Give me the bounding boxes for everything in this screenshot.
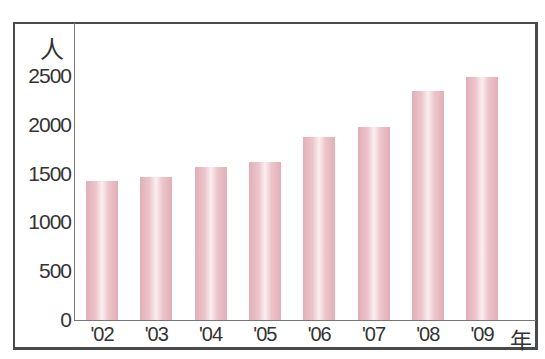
x-tick-label: '08 (408, 324, 448, 344)
x-axis-unit-label: 年 (510, 322, 532, 354)
bar-05 (249, 162, 281, 320)
y-tick-label: 0 (60, 309, 71, 330)
bar-02 (86, 181, 118, 320)
bar-04 (195, 167, 227, 320)
x-tick-label: '05 (245, 324, 285, 344)
bar-06 (303, 137, 335, 320)
y-axis-line (74, 23, 75, 321)
y-axis-unit-label: 人 (40, 30, 64, 65)
y-tick-label: 1000 (28, 211, 71, 232)
x-tick-label: '03 (136, 324, 176, 344)
x-tick-label: '02 (82, 324, 122, 344)
x-axis-line (74, 320, 536, 321)
bar-07 (358, 127, 390, 320)
x-tick-label: '07 (354, 324, 394, 344)
x-tick-label: '06 (299, 324, 339, 344)
bar-09 (466, 77, 498, 320)
y-tick-label: 2500 (28, 65, 71, 86)
y-tick-label: 2000 (28, 114, 71, 135)
x-tick-label: '09 (462, 324, 502, 344)
y-tick-label: 1500 (28, 163, 71, 184)
y-tick-label: 500 (39, 260, 71, 281)
x-tick-label: '04 (191, 324, 231, 344)
bar-03 (140, 177, 172, 320)
bar-08 (412, 91, 444, 320)
